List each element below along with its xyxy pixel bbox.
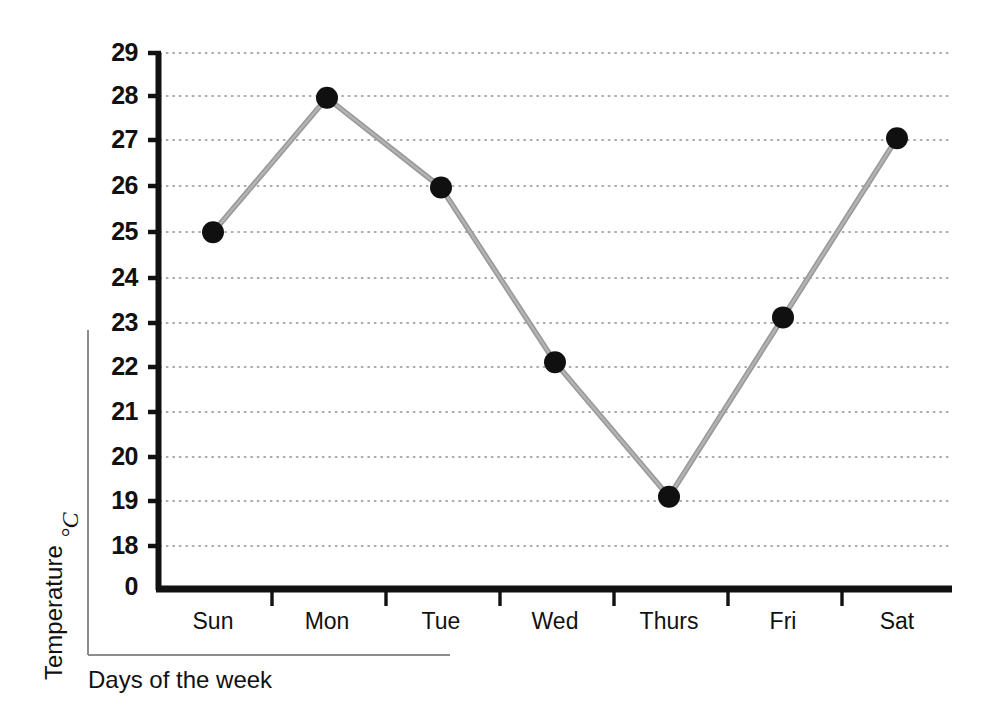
- data-point-wed: [544, 351, 566, 373]
- x-tick-label-fri: Fri: [725, 610, 841, 633]
- y-tick-label-20: 20: [92, 444, 138, 469]
- data-point-mon: [316, 87, 338, 109]
- y-tick-label-28: 28: [92, 83, 138, 108]
- data-markers: [202, 87, 908, 508]
- data-point-thurs: [658, 486, 680, 508]
- data-line-temperature: [213, 98, 897, 497]
- x-tick-label-thurs: Thurs: [611, 610, 727, 633]
- line-chart: 29 28 27 26 25 24 23 22 21 20 19 18 0 Su…: [0, 0, 1005, 727]
- y-tick-label-23: 23: [92, 310, 138, 335]
- x-tick-label-mon: Mon: [269, 610, 385, 633]
- y-tick-label-27: 27: [92, 127, 138, 152]
- y-tick-label-18: 18: [92, 533, 138, 558]
- data-point-sat: [886, 127, 908, 149]
- x-axis-title: Days of the week: [88, 668, 272, 692]
- y-axis-title: Temperature: [42, 545, 66, 680]
- x-tick-label-sat: Sat: [839, 610, 955, 633]
- y-tick-label-21: 21: [92, 399, 138, 424]
- y-tick-label-22: 22: [92, 354, 138, 379]
- y-tick-label-19: 19: [92, 488, 138, 513]
- y-tick-label-29: 29: [92, 40, 138, 65]
- data-point-fri: [772, 306, 794, 328]
- y-tick-label-24: 24: [92, 265, 138, 290]
- x-axis-ticks: [272, 591, 842, 606]
- x-tick-label-tue: Tue: [383, 610, 499, 633]
- data-point-sun: [202, 221, 224, 243]
- x-tick-label-sun: Sun: [155, 610, 271, 633]
- y-tick-label-26: 26: [92, 173, 138, 198]
- y-tick-label-25: 25: [92, 219, 138, 244]
- gridlines: [160, 53, 952, 546]
- data-point-tue: [430, 177, 452, 199]
- y-tick-label-0: 0: [92, 574, 138, 599]
- y-axis-unit: °C: [58, 512, 82, 538]
- y-axis-unit-group: °C: [58, 478, 92, 538]
- x-tick-label-wed: Wed: [497, 610, 613, 633]
